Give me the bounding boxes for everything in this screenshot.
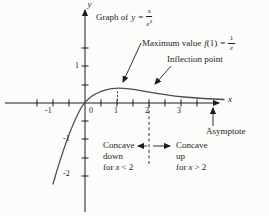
x-tick-label-neg1: -1 xyxy=(45,106,52,115)
y-tick-label-neg2: -2 xyxy=(63,169,70,178)
asymptote-label: Asymptote xyxy=(206,126,246,137)
concave-down-line2: down xyxy=(103,151,135,162)
concave-down-line3: for x < 2 xyxy=(103,162,135,173)
concave-down-line1: Concave xyxy=(103,140,135,151)
title-fraction: x ex xyxy=(146,8,152,28)
concave-down-block: Concave down for x < 2 xyxy=(103,140,135,173)
title-equals: = xyxy=(138,12,143,23)
x-tick-label-0: 0 xyxy=(89,106,93,115)
max-text: Maximum value xyxy=(142,38,201,49)
function-graph-figure: y x Graph of y = x ex Maximum value f(1)… xyxy=(0,0,269,216)
y-axis-label: y xyxy=(88,0,92,10)
max-fraction: 1 e xyxy=(228,35,235,52)
max-fexpr: f(1) xyxy=(204,38,217,49)
concave-up-line1: Concave xyxy=(176,140,208,151)
concave-up-block: Concave up for x > 2 xyxy=(176,140,208,173)
inflection-annotation: Inflection point xyxy=(167,54,223,65)
maximum-annotation: Maximum value f(1) = 1 e xyxy=(142,35,235,52)
x-tick-label-3: 3 xyxy=(177,106,181,115)
max-equals: = xyxy=(220,38,225,49)
inflection-arrow xyxy=(155,66,171,84)
graph-canvas xyxy=(0,0,269,216)
title-prefix: Graph of xyxy=(96,12,128,23)
title-var: y xyxy=(131,12,135,23)
graph-title: Graph of y = x ex xyxy=(96,8,152,28)
maximum-arrow xyxy=(123,43,141,82)
concave-up-line3: for x > 2 xyxy=(176,162,208,173)
concave-up-line2: up xyxy=(176,151,208,162)
x-axis-label: x xyxy=(228,94,232,105)
x-tick-label-1: 1 xyxy=(114,106,118,115)
x-tick-label-2: 2 xyxy=(145,106,149,115)
y-tick-label-1: 1 xyxy=(75,61,79,70)
y-tick-label-neg1: -1 xyxy=(63,134,70,143)
